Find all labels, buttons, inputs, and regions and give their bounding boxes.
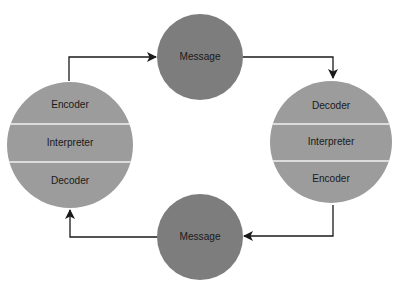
left-section-interpreter: Interpreter	[47, 135, 94, 148]
arrow-left-to-top-message	[69, 57, 156, 81]
arrow-right-to-bottom-message	[244, 205, 333, 236]
arrow-top-message-to-right	[243, 57, 333, 78]
right-section-decoder: Decoder	[312, 98, 351, 111]
arrow-bottom-message-to-left	[70, 210, 158, 237]
right-section-interpreter: Interpreter	[308, 134, 355, 147]
top-message-node: Message	[157, 14, 243, 100]
left-section-decoder: Decoder	[51, 173, 90, 186]
left-section-encoder: Encoder	[51, 97, 89, 110]
communication-cycle-diagram: Message Message Encoder Interpreter Deco…	[0, 0, 399, 283]
bottom-message-node: Message	[157, 194, 243, 280]
right-participant-node: Decoder Interpreter Encoder	[260, 81, 399, 203]
right-section-encoder: Encoder	[312, 171, 350, 184]
top-message-label: Message	[179, 49, 220, 62]
bottom-message-label: Message	[179, 229, 220, 242]
left-participant-node: Encoder Interpreter Decoder	[0, 82, 140, 208]
